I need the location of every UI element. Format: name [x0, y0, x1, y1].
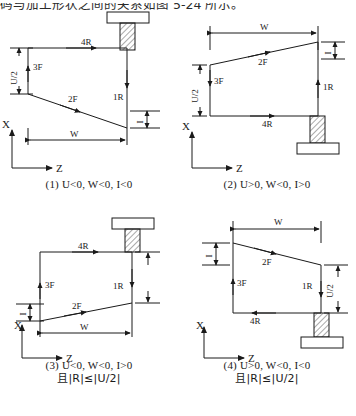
caption-line-2: 且|R|≤|U/2|	[0, 372, 178, 385]
label-axis-x: X	[196, 319, 204, 331]
label-w: W	[70, 129, 79, 139]
caption-quadrant-4: (4) U>0, W<0, I<0 且|R|≤|U/2|	[178, 359, 356, 385]
diagram-3-canvas: 4R 3F 1R 2F W X Z I	[0, 203, 178, 378]
caption-line-1: (1) U<0, W<0, I<0	[46, 178, 133, 190]
label-axis-z: Z	[236, 162, 243, 174]
caption-quadrant-2: (2) U>0, W<0, I>0	[178, 178, 356, 191]
label-u-half: U/2	[190, 89, 200, 103]
diagram-quadrant-4: W 2F 3F 1R 4R X Z I U/2 (4) U>0, W<0, I<…	[178, 203, 356, 403]
tool-icon	[301, 313, 343, 348]
diagram-quadrant-2: W 2F 3F 1R 4R X Z U/2 I (2) U>0, W<0, I>…	[178, 8, 356, 208]
tool-icon	[107, 12, 149, 50]
label-axis-x: X	[2, 118, 10, 130]
label-2f: 2F	[68, 94, 78, 104]
diagram-quadrant-1: 4R 3F 1R 2F W X Z U/2 I (1) U<0, W<0, I<…	[0, 8, 178, 208]
dimension-u-half	[10, 48, 33, 94]
caption-line-1: (2) U>0, W<0, I>0	[224, 178, 311, 190]
label-i: I	[18, 313, 28, 316]
axis-xz	[192, 132, 232, 168]
diagram-4-canvas: W 2F 3F 1R 4R X Z I U/2	[178, 203, 356, 378]
tool-icon	[112, 218, 154, 252]
label-1r: 1R	[113, 281, 124, 291]
label-4r: 4R	[78, 241, 89, 251]
tool-icon	[297, 116, 339, 154]
dimension-i	[130, 111, 160, 128]
label-1r: 1R	[302, 281, 313, 291]
label-2f: 2F	[262, 257, 272, 267]
label-u-half: U/2	[325, 284, 335, 298]
label-w: W	[80, 322, 89, 332]
label-u-half: U/2	[9, 71, 19, 85]
label-1r: 1R	[323, 82, 334, 92]
diagram-quadrant-3: 4R 3F 1R 2F W X Z I (3) U<0, W<0, I>0 且|…	[0, 203, 178, 403]
label-w: W	[260, 22, 269, 32]
label-4r: 4R	[81, 37, 92, 47]
diagram-1-canvas: 4R 3F 1R 2F W X Z U/2 I	[0, 8, 178, 183]
label-1r: 1R	[113, 92, 124, 102]
axis-xz	[22, 325, 62, 358]
label-axis-x: X	[14, 319, 22, 331]
caption-line-1: (3) U<0, W<0, I>0	[46, 359, 133, 371]
label-2f: 2F	[72, 301, 82, 311]
figure-page: 码与加工形状之间的关系如图 5-24 所示。	[0, 0, 356, 416]
label-3f: 3F	[237, 278, 247, 288]
dimension-right-unlabeled	[135, 252, 160, 303]
segment-2f	[233, 243, 321, 265]
label-4r: 4R	[262, 119, 273, 129]
caption-line-1: (4) U>0, W<0, I<0	[224, 359, 311, 371]
dimension-i	[321, 42, 345, 59]
label-axis-z: Z	[56, 162, 63, 174]
label-4r: 4R	[250, 316, 261, 326]
label-2f: 2F	[258, 57, 268, 67]
label-3f: 3F	[45, 280, 55, 290]
diagram-2-canvas: W 2F 3F 1R 4R X Z U/2 I	[178, 8, 356, 183]
caption-quadrant-1: (1) U<0, W<0, I<0	[0, 178, 178, 191]
label-3f: 3F	[214, 76, 224, 86]
dimension-i	[202, 243, 230, 265]
label-axis-x: X	[182, 120, 190, 132]
label-3f: 3F	[33, 62, 43, 72]
label-i: I	[323, 52, 333, 55]
label-w: W	[274, 217, 283, 227]
label-i: I	[135, 121, 145, 124]
caption-line-2: 且|R|≤|U/2|	[178, 372, 356, 385]
caption-quadrant-3: (3) U<0, W<0, I>0 且|R|≤|U/2|	[0, 359, 178, 385]
axis-xz	[12, 130, 52, 168]
axis-xz	[204, 327, 244, 358]
label-i: I	[204, 255, 214, 258]
